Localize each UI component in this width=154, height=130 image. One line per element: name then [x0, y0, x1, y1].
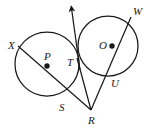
point-label-r: R	[88, 115, 95, 126]
point-label-s: S	[59, 102, 65, 113]
point-label-o: O	[99, 40, 107, 51]
circle-o	[78, 16, 138, 76]
point-label-p: P	[44, 51, 51, 62]
point-label-u: U	[111, 78, 119, 89]
point-label-w: W	[133, 6, 142, 17]
center-dot-o	[109, 43, 114, 48]
secant-line-w-u-r	[91, 17, 131, 110]
geometry-figure: X P T O W U S R	[0, 0, 154, 130]
center-dot-p	[44, 63, 49, 68]
point-label-t: T	[67, 57, 73, 68]
point-label-x: X	[8, 40, 15, 51]
geometry-canvas	[0, 0, 154, 130]
